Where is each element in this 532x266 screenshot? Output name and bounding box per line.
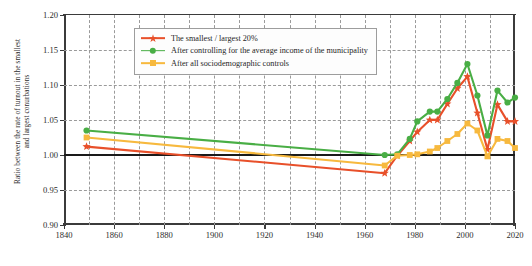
series-marker [407, 152, 413, 158]
x-tick-label: 1940 [306, 230, 323, 240]
series-marker [84, 135, 90, 141]
series-marker [427, 109, 433, 115]
x-tick-label: 1920 [256, 230, 273, 240]
chart-figure: Ratio between the rate of turnout in the… [0, 0, 532, 266]
y-tick-label: 1.05 [43, 115, 58, 125]
legend-item-2[interactable]: After controlling for the average income… [140, 45, 368, 58]
series-marker [495, 136, 501, 142]
series-marker [494, 88, 500, 94]
x-tick-label: 1980 [406, 230, 423, 240]
series-marker [394, 153, 400, 159]
y-tick-label: 1.10 [43, 80, 58, 90]
x-tick-mark [365, 225, 366, 229]
series-marker [485, 154, 491, 160]
y-tick-label: 1.20 [43, 10, 58, 20]
x-tick-label: 1900 [206, 230, 223, 240]
y-axis-label-line-2: and largest conurbations [23, 0, 32, 226]
legend-item-3[interactable]: After all sociodemographic controls [140, 57, 368, 70]
x-tick-mark [264, 225, 265, 229]
series-marker [82, 142, 90, 150]
series-marker [464, 121, 470, 127]
series-marker [464, 61, 470, 67]
series-marker [512, 95, 518, 101]
y-tick-label: 1.00 [43, 150, 58, 160]
series-marker [427, 149, 433, 155]
x-tick-mark [114, 225, 115, 229]
series-line [87, 124, 515, 166]
legend-swatch-square-icon [140, 57, 166, 69]
x-tick-mark [315, 225, 316, 229]
x-tick-label: 1840 [55, 230, 72, 240]
x-tick-label: 1880 [156, 230, 173, 240]
x-tick-mark [415, 225, 416, 229]
legend-item-1[interactable]: The smallest / largest 20% [140, 32, 368, 45]
series-line [87, 64, 515, 155]
legend-swatch-circle-icon [140, 45, 166, 57]
series-marker [83, 127, 89, 133]
x-tick-mark [515, 225, 516, 229]
series-marker [475, 128, 481, 134]
y-tick-label: 0.90 [43, 220, 58, 230]
x-tick-mark [214, 225, 215, 229]
legend-swatch-star-icon [140, 32, 166, 44]
x-tick-mark [164, 225, 165, 229]
series-marker [504, 99, 510, 105]
y-tick-label: 0.95 [43, 185, 58, 195]
series-marker [454, 131, 460, 137]
legend-label: After controlling for the average income… [171, 46, 368, 55]
y-axis-label: Ratio between the rate of turnout in the… [14, 0, 33, 226]
series-marker [382, 152, 388, 158]
series-marker [434, 145, 440, 151]
series-marker [512, 145, 518, 151]
series-marker [484, 132, 490, 138]
series-marker [474, 92, 480, 98]
series-marker [444, 96, 450, 102]
chart-legend: The smallest / largest 20%After controll… [134, 28, 377, 75]
series-marker [505, 138, 511, 144]
y-tick-label: 1.15 [43, 45, 58, 55]
series-marker [382, 163, 388, 169]
legend-label: After all sociodemographic controls [171, 59, 289, 68]
series-marker [511, 117, 519, 125]
series-3 [84, 121, 518, 169]
series-line [87, 77, 515, 174]
series-marker [434, 109, 440, 115]
x-tick-label: 1860 [106, 230, 123, 240]
series-marker [444, 138, 450, 144]
series-marker [407, 136, 413, 142]
x-tick-label: 2020 [506, 230, 523, 240]
x-tick-label: 2000 [456, 230, 473, 240]
x-tick-label: 1960 [356, 230, 373, 240]
y-axis-label-line-1: Ratio between the rate of turnout in the… [14, 0, 23, 226]
series-marker [414, 118, 420, 124]
x-tick-mark [64, 225, 65, 229]
series-marker [414, 151, 420, 157]
x-tick-mark [465, 225, 466, 229]
series-marker [454, 80, 460, 86]
legend-label: The smallest / largest 20% [171, 34, 258, 43]
